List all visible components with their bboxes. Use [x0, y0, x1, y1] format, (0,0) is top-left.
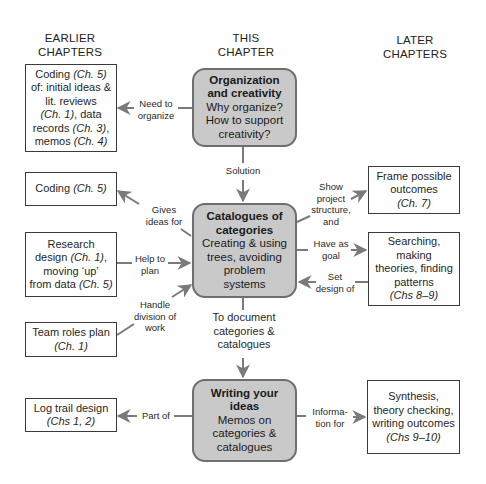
label-have-as-goal: Have as goal [305, 238, 357, 261]
chapter-ref: (Ch. 5) [73, 68, 107, 80]
label-need-to-organize: Need to organize [131, 98, 181, 121]
text: of: initial ideas & [31, 81, 111, 93]
label-line: goal [305, 250, 357, 262]
chapter-ref: (Ch. 1) [70, 251, 104, 263]
header-later-line1: LATER [365, 33, 465, 47]
label-line: division of [125, 311, 185, 323]
label-to-document: To document categories & catalogues [198, 311, 290, 352]
earlier-box-coding: Coding (Ch. 5) [25, 172, 117, 206]
team-text: Team roles plan [32, 326, 110, 340]
label-line: project [305, 193, 357, 205]
label-line: structure, [305, 204, 357, 216]
label-handle-division: Handle division of work [125, 299, 185, 334]
label-line: Part of [134, 410, 178, 422]
earlier-box-log-trail: Log trail design (Chs 1, 2) [25, 398, 117, 432]
text: memos [35, 135, 74, 147]
coding-initial-line6: memos (Ch. 4) [35, 135, 108, 149]
label-line: Set [309, 271, 361, 283]
later-box-synthesis: Synthesis, theory checking, writing outc… [367, 380, 460, 454]
header-later-chapters: LATER CHAPTERS [365, 33, 465, 61]
research-line4: from data (Ch. 5) [29, 278, 112, 292]
text: records [33, 122, 73, 134]
catalogues-body-line2: trees, avoiding [207, 251, 282, 265]
organization-body-line3: creativity? [219, 128, 271, 142]
label-line: categories & [198, 325, 290, 339]
organization-body-line1: Why organize? [206, 101, 283, 115]
header-later-line2: CHAPTERS [365, 47, 465, 61]
later-box-frame-outcomes: Frame possible outcomes (Ch. 7) [368, 166, 460, 214]
coding-line: Coding (Ch. 5) [35, 182, 107, 196]
arrow-gives-ideas [181, 229, 191, 236]
log-text: Log trail design [34, 402, 109, 416]
text: , data [74, 108, 102, 120]
catalogues-body-line1: Creating & using [202, 237, 287, 251]
searching-line2: making [396, 249, 431, 263]
label-line: Informa- [305, 406, 355, 418]
label-line: ideas for [136, 216, 192, 228]
chapter-ref: (Ch. 5) [79, 278, 113, 290]
frame-line1: Frame possible [376, 170, 451, 184]
research-line2: design (Ch. 1), [35, 251, 107, 265]
label-part-of: Part of [134, 410, 178, 422]
synthesis-line3: writing outcomes [372, 417, 455, 431]
chapter-ref: (Ch. 3) [73, 122, 107, 134]
label-set-design-of: Set design of [309, 271, 361, 294]
chapter-ref: (Chs 8–9) [390, 289, 438, 303]
coding-initial-line3: lit. reviews [45, 95, 96, 109]
header-earlier-line2: CHAPTERS [20, 45, 120, 59]
synthesis-line2: theory checking, [373, 404, 453, 418]
earlier-box-research-design: Research design (Ch. 1), moving ‘up’ fro… [25, 232, 117, 297]
label-line: Handle [125, 299, 185, 311]
catalogues-title-line2: categories [216, 224, 274, 238]
header-earlier-line1: EARLIER [20, 31, 120, 45]
label-line: Gives [136, 204, 192, 216]
label-line: To document [198, 311, 290, 325]
organization-title-line2: and creativity [207, 87, 281, 101]
coding-initial-line4: (Ch. 1), data [40, 108, 101, 122]
label-line: plan [128, 265, 172, 277]
label-line: Show [305, 181, 357, 193]
label-information-for: Informa- tion for [305, 406, 355, 429]
searching-line3: theories, finding [375, 262, 453, 276]
chapter-ref: (Chs 9–10) [386, 431, 440, 445]
label-line: organize [131, 110, 181, 122]
writing-title-line1: Writing your [211, 387, 279, 401]
chapter-ref: (Ch. 5) [73, 182, 107, 194]
chapter-ref: (Ch. 1) [40, 108, 74, 120]
label-help-to-plan: Help to plan [128, 253, 172, 276]
label-gives-ideas-for: Gives ideas for [136, 204, 192, 227]
coding-initial-line1: Coding (Ch. 5) [35, 68, 107, 82]
synthesis-line1: Synthesis, [388, 390, 439, 404]
catalogues-body-line3: problem [224, 264, 266, 278]
coding-initial-line2: of: initial ideas & [31, 81, 111, 95]
frame-line2: outcomes [390, 183, 438, 197]
writing-title-line2: ideas [230, 400, 259, 414]
label-line: Solution [213, 165, 273, 177]
searching-line4: patterns [394, 276, 434, 290]
label-line: Need to [131, 98, 181, 110]
text: lit. reviews [45, 95, 96, 107]
label-line: design of [309, 283, 361, 295]
catalogues-body-line4: systems [223, 278, 265, 292]
research-line1: Research [47, 238, 94, 252]
text: design [35, 251, 70, 263]
text: from data [29, 278, 79, 290]
center-box-writing: Writing your ideas Memos on categories &… [192, 379, 297, 462]
chapter-ref: (Ch. 4) [74, 135, 108, 147]
coding-initial-line5: records (Ch. 3), [33, 122, 109, 136]
header-this-line2: CHAPTER [196, 45, 296, 59]
text: Coding [35, 182, 73, 194]
header-this-line1: THIS [196, 31, 296, 45]
label-line: tion for [305, 418, 355, 430]
writing-body-line1: Memos on [218, 414, 272, 428]
chapter-ref: (Ch. 7) [397, 197, 431, 211]
text: Coding [35, 68, 73, 80]
header-this-chapter: THIS CHAPTER [196, 31, 296, 59]
label-line: and [305, 216, 357, 228]
label-line: Have as [305, 238, 357, 250]
searching-line1: Searching, [388, 235, 441, 249]
center-box-catalogues: Catalogues of categories Creating & usin… [192, 203, 297, 298]
label-line: work [125, 322, 185, 334]
chapter-ref: (Ch. 1) [54, 340, 88, 354]
later-box-searching: Searching, making theories, finding patt… [368, 232, 460, 306]
